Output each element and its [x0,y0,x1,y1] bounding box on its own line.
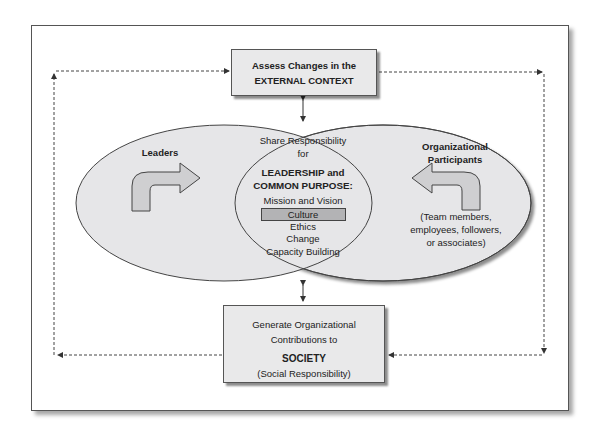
external-context-box: Assess Changes in the EXTERNAL CONTEXT [231,49,377,96]
participants-desc-line2: employees, followers, [396,223,516,236]
bottom-box-line3: SOCIETY [224,351,384,366]
item-mission-vision: Mission and Vision [240,195,366,208]
bottom-box-line1: Generate Organizational [224,317,384,332]
participants-label-line2: Participants [405,153,505,166]
top-box-line1: Assess Changes in the [232,58,376,73]
item-change: Change [240,233,366,246]
leaders-label: Leaders [120,146,200,159]
center-heading2: COMMON PURPOSE: [240,179,366,192]
participants-label: Organizational Participants [405,140,505,166]
item-ethics: Ethics [240,221,366,234]
participants-desc-line1: (Team members, [396,210,516,223]
center-heading1: LEADERSHIP and [240,166,366,179]
society-box: Generate Organizational Contributions to… [223,305,385,383]
item-capacity-building: Capacity Building [240,246,366,259]
participants-label-line1: Organizational [405,140,505,153]
top-box-line2: EXTERNAL CONTEXT [232,73,376,88]
bottom-box-line2: Contributions to [224,332,384,347]
bottom-box-line4: (Social Responsibility) [224,366,384,381]
center-line2: for [240,147,366,160]
center-line1: Share Responsibility [240,134,366,147]
participants-desc-line3: or associates) [396,236,516,249]
item-culture-highlighted: Culture [261,208,346,221]
participants-description: (Team members, employees, followers, or … [396,210,516,249]
shared-responsibility-text: Share Responsibility for LEADERSHIP and … [240,134,366,258]
